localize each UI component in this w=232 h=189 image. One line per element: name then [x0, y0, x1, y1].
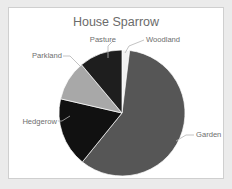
chart-figure: House Sparrow WoodlandGardenHedgerowPark… [0, 0, 232, 189]
leader-line-parkland [63, 56, 80, 66]
pie-chart: House Sparrow WoodlandGardenHedgerowPark… [0, 0, 232, 189]
slice-label-pasture: Pasture [90, 35, 116, 44]
chart-title: House Sparrow [73, 15, 160, 29]
slice-label-garden: Garden [196, 130, 221, 139]
slice-label-hedgerow: Hedgerow [22, 117, 57, 126]
pie-slices [59, 50, 185, 176]
slice-label-woodland: Woodland [146, 35, 180, 44]
slice-label-parkland: Parkland [32, 51, 62, 60]
